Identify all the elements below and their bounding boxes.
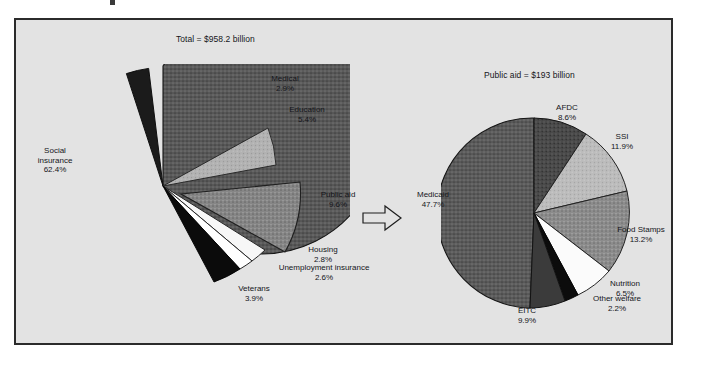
label-housing: Housing 2.8% [292,245,354,264]
figure-panel: Total = $958.2 billion [14,18,673,345]
label-food-stamps: Food Stamps 13.2% [605,225,677,244]
arrow-right-icon [361,203,403,233]
label-afdc-name: AFDC [537,103,597,113]
label-social-insurance-value: 62.4% [22,165,88,175]
label-ssi-name: SSI [596,132,648,142]
label-education: Education 5.4% [273,105,341,124]
label-social-insurance: Social insurance 62.4% [22,146,88,175]
slice-medicaid [441,118,534,308]
label-social-insurance-line2: insurance [22,156,88,166]
label-other-welfare-value: 2.2% [579,304,655,314]
label-unemployment-insurance: Unemployment insurance 2.6% [259,263,389,282]
left-pie-chart [30,64,350,326]
label-housing-name: Housing [292,245,354,255]
label-medical-value: 2.9% [253,84,317,94]
label-medicaid-value: 47.7% [401,200,465,210]
label-medicaid-name: Medicaid [401,190,465,200]
label-veterans: Veterans 3.9% [223,284,285,303]
label-public-aid-value: 9.6% [307,200,369,210]
label-medicaid: Medicaid 47.7% [401,190,465,209]
crop-tick-mark [110,0,115,5]
label-other-welfare-name: Other welfare [579,294,655,304]
label-eitc-value: 9.9% [501,316,553,326]
label-eitc: EITC 9.9% [501,306,553,325]
label-ssi-value: 11.9% [596,142,648,152]
label-unemployment-insurance-value: 2.6% [259,273,389,283]
label-education-name: Education [273,105,341,115]
left-chart-title: Total = $958.2 billion [176,34,255,44]
label-public-aid-name: Public aid [307,190,369,200]
label-medical-name: Medical [253,74,317,84]
label-public-aid: Public aid 9.6% [307,190,369,209]
label-education-value: 5.4% [273,115,341,125]
label-afdc: AFDC 8.6% [537,103,597,122]
label-ssi: SSI 11.9% [596,132,648,151]
label-veterans-value: 3.9% [223,294,285,304]
label-nutrition-name: Nutrition [594,279,656,289]
figure-root: Total = $958.2 billion [0,0,701,366]
label-other-welfare: Other welfare 2.2% [579,294,655,313]
label-social-insurance-line1: Social [22,146,88,156]
label-eitc-name: EITC [501,306,553,316]
label-food-stamps-name: Food Stamps [605,225,677,235]
left-pie-svg [30,64,350,326]
label-afdc-value: 8.6% [537,113,597,123]
right-chart-title: Public aid = $193 billion [484,70,575,80]
label-veterans-name: Veterans [223,284,285,294]
label-unemployment-insurance-name: Unemployment insurance [259,263,389,273]
label-medical: Medical 2.9% [253,74,317,93]
label-food-stamps-value: 13.2% [605,235,677,245]
